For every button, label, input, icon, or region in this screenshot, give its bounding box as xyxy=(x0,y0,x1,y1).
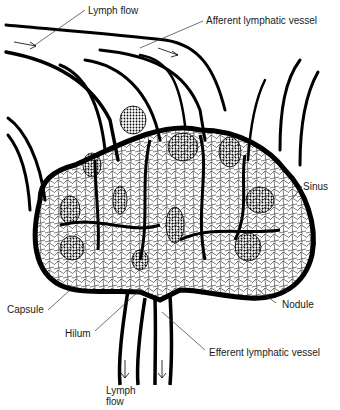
label-lymph-flow-out-1: Lymph xyxy=(106,385,136,396)
label-efferent-vessel: Efferent lymphatic vessel xyxy=(209,347,320,358)
label-hilum: Hilum xyxy=(65,328,91,339)
lymph-node-diagram: Lymph flow Afferent lymphatic vessel Sin… xyxy=(0,0,340,410)
efferent-vessels xyxy=(119,290,171,385)
label-sinus: Sinus xyxy=(303,181,328,192)
label-lymph-flow-in: Lymph flow xyxy=(88,5,138,16)
label-nodule: Nodule xyxy=(282,299,314,310)
label-afferent-vessel: Afferent lymphatic vessel xyxy=(206,15,317,26)
label-lymph-flow-out-2: flow xyxy=(106,396,124,407)
label-capsule: Capsule xyxy=(7,304,44,315)
